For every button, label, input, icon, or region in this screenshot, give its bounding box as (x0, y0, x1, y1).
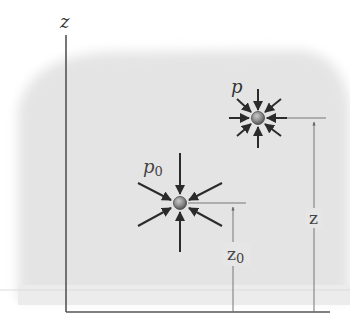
pressure-diagram: z z z0 p p0 (0, 0, 350, 329)
upper-fluid-particle (252, 112, 265, 125)
upper-height-label: z (309, 208, 318, 228)
diagram-canvas: z z z0 p p0 (0, 0, 350, 329)
z-axis-label: z (59, 11, 70, 32)
lower-fluid-particle (174, 197, 187, 210)
fluid-region (18, 50, 350, 300)
fluid-bottom-band (18, 285, 350, 305)
upper-pressure-label: p (231, 76, 243, 97)
